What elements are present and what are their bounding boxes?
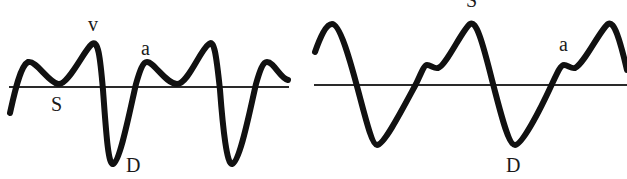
right-panel: S a D [314, 0, 627, 176]
left-panel: v a S D [9, 13, 289, 176]
label-s-wave-right: S [466, 0, 477, 11]
label-a-wave-right: a [559, 33, 568, 55]
venous-waveform-diagram: v a S D S a D [0, 0, 627, 179]
label-s-wave: S [51, 93, 62, 115]
label-a-wave: a [141, 37, 150, 59]
label-v-wave: v [88, 13, 98, 35]
label-d-wave-right: D [506, 154, 520, 176]
label-d-wave: D [126, 154, 140, 176]
